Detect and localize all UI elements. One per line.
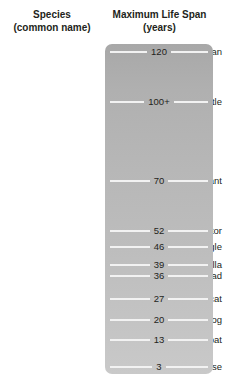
value-row: 36: [105, 270, 213, 281]
value-label: 3: [152, 361, 165, 372]
tick-line-right: [168, 246, 208, 248]
value-row: 13: [105, 334, 213, 345]
value-label: 36: [150, 270, 169, 281]
tick-line-left: [110, 230, 150, 232]
tick-line-right: [174, 101, 208, 103]
tick-line-left: [110, 298, 150, 300]
tick-line-left: [110, 101, 144, 103]
column-header-lifespan: Maximum Life Span (years): [105, 8, 214, 34]
column-header-lifespan-line2: (years): [105, 21, 214, 34]
column-header-species-line1: Species: [33, 9, 71, 20]
tick-line-left: [110, 319, 150, 321]
value-label: 27: [150, 293, 169, 304]
tick-line-right: [168, 319, 208, 321]
tick-line-left: [110, 339, 150, 341]
value-label: 46: [150, 241, 169, 252]
value-label: 39: [150, 259, 169, 270]
value-row: 3: [105, 361, 213, 372]
tick-line-right: [168, 264, 208, 266]
value-row: 100+: [105, 96, 213, 107]
value-row: 27: [105, 293, 213, 304]
tick-line-right: [168, 339, 208, 341]
tick-line-right: [168, 298, 208, 300]
value-label: 70: [150, 175, 169, 186]
tick-line-right: [171, 51, 208, 53]
tick-line-right: [168, 275, 208, 277]
value-row: 120: [105, 46, 213, 57]
value-label: 120: [147, 46, 171, 57]
tick-line-left: [110, 264, 150, 266]
value-row: 52: [105, 225, 213, 236]
tick-line-left: [110, 275, 150, 277]
tick-line-right: [166, 366, 208, 368]
value-row: 20: [105, 314, 213, 325]
life-span-scale-bar: 120100+70524639362720133: [105, 44, 213, 374]
column-header-lifespan-line1: Maximum Life Span: [113, 9, 207, 20]
tick-line-left: [110, 366, 152, 368]
tick-line-left: [110, 180, 150, 182]
tick-line-right: [168, 180, 208, 182]
tick-line-right: [168, 230, 208, 232]
value-row: 70: [105, 175, 213, 186]
value-label: 100+: [144, 96, 173, 107]
column-header-species-line2: (common name): [0, 21, 104, 34]
tick-line-left: [110, 246, 150, 248]
column-header-species: Species (common name): [0, 8, 104, 34]
value-label: 52: [150, 225, 169, 236]
max-life-span-chart: Species (common name) Maximum Life Span …: [0, 0, 230, 387]
value-label: 20: [150, 314, 169, 325]
value-row: 39: [105, 259, 213, 270]
value-label: 13: [150, 334, 169, 345]
tick-line-left: [110, 51, 147, 53]
value-row: 46: [105, 241, 213, 252]
